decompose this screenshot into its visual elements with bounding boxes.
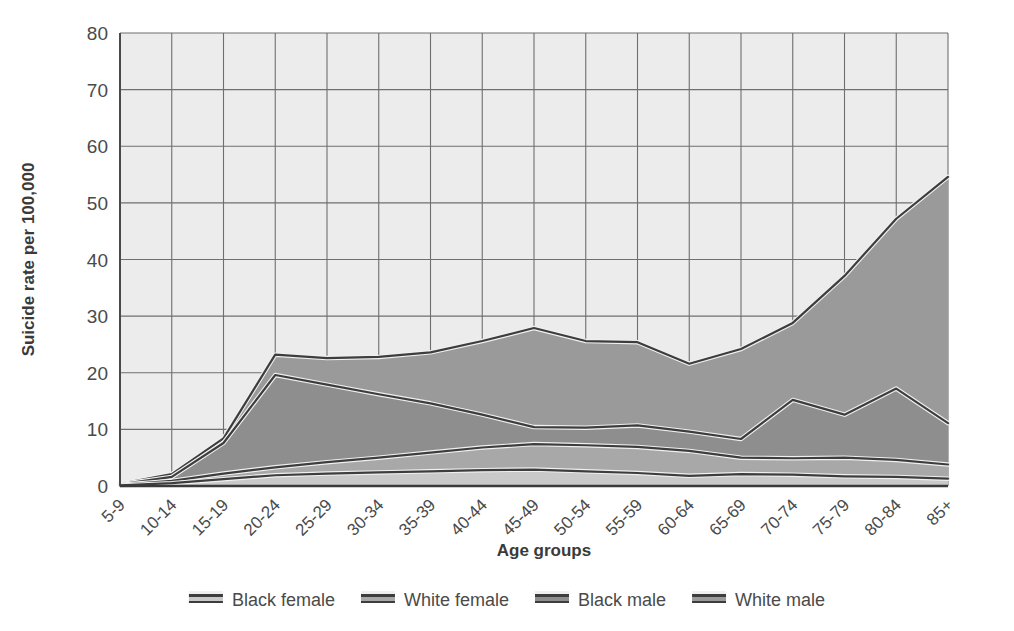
- x-tick-label: 45-49: [499, 495, 543, 539]
- legend-swatch-highlight: [189, 591, 223, 594]
- suicide-rate-area-chart: 01020304050607080Suicide rate per 100,00…: [0, 0, 1014, 631]
- x-tick-label: 5-9: [98, 495, 129, 526]
- legend-item[interactable]: White male: [692, 590, 825, 610]
- x-tick-label: 10-14: [136, 495, 180, 539]
- legend-swatch-highlight: [692, 591, 726, 594]
- legend-swatch-black-female: [189, 591, 223, 603]
- legend-swatch-line: [361, 594, 395, 597]
- legend-swatch-line-2: [535, 601, 569, 603]
- x-tick-label: 70-74: [757, 495, 801, 539]
- legend-swatch-fill: [189, 597, 223, 601]
- legend-label: White female: [404, 590, 509, 610]
- legend-swatch-fill: [361, 597, 395, 601]
- x-tick-label: 35-39: [395, 495, 439, 539]
- x-tick-label: 55-59: [602, 495, 646, 539]
- legend-label: Black male: [578, 590, 666, 610]
- x-axis-title: Age groups: [497, 541, 591, 560]
- y-tick-label: 40: [87, 250, 108, 271]
- x-tick-label: 85+: [923, 495, 957, 529]
- legend-swatch-line: [535, 594, 569, 597]
- x-tick-label: 80-84: [861, 495, 905, 539]
- x-tick-label: 50-54: [550, 495, 594, 539]
- legend-label: Black female: [232, 590, 335, 610]
- legend-swatch-white-female: [361, 591, 395, 603]
- y-tick-label: 80: [87, 23, 108, 44]
- x-tick-label: 40-44: [447, 495, 491, 539]
- legend-item[interactable]: Black female: [189, 590, 335, 610]
- legend-swatch-black-male: [535, 591, 569, 603]
- legend-swatch-fill: [535, 597, 569, 601]
- legend-swatch-line: [692, 594, 726, 597]
- y-tick-label: 70: [87, 80, 108, 101]
- legend-swatch-highlight: [361, 591, 395, 594]
- y-axis-title: Suicide rate per 100,000: [19, 163, 38, 357]
- legend-label: White male: [735, 590, 825, 610]
- y-tick-label: 60: [87, 136, 108, 157]
- x-tick-label: 25-29: [292, 495, 336, 539]
- legend-swatch-line-2: [189, 601, 223, 603]
- y-tick-label: 50: [87, 193, 108, 214]
- legend-swatch-white-male: [692, 591, 726, 603]
- x-tick-label: 60-64: [654, 495, 698, 539]
- legend-swatch-line: [189, 594, 223, 597]
- y-tick-label: 0: [97, 476, 108, 497]
- legend-swatch-fill: [692, 597, 726, 601]
- chart-container: 01020304050607080Suicide rate per 100,00…: [0, 0, 1014, 631]
- x-tick-label: 20-24: [240, 495, 284, 539]
- y-tick-label: 10: [87, 419, 108, 440]
- x-tick-label: 75-79: [809, 495, 853, 539]
- legend-swatch-line-2: [692, 601, 726, 603]
- legend-item[interactable]: White female: [361, 590, 509, 610]
- y-tick-label: 20: [87, 363, 108, 384]
- legend-item[interactable]: Black male: [535, 590, 666, 610]
- x-tick-label: 30-34: [343, 495, 387, 539]
- x-tick-label: 15-19: [188, 495, 232, 539]
- x-tick-label: 65-69: [706, 495, 750, 539]
- y-tick-label: 30: [87, 306, 108, 327]
- legend-swatch-highlight: [535, 591, 569, 594]
- legend-swatch-line-2: [361, 601, 395, 603]
